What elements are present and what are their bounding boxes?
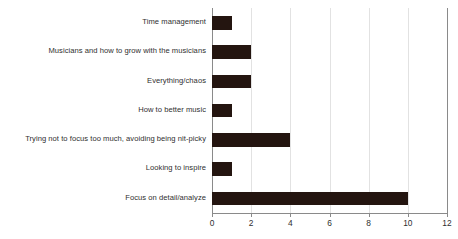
- category-label: Everything/chaos: [147, 77, 206, 85]
- bar-row: [212, 37, 447, 66]
- tick-mark: [251, 213, 252, 217]
- bar: [212, 16, 232, 30]
- bars-layer: [212, 8, 447, 213]
- tick-mark: [447, 213, 448, 217]
- bar-row: [212, 125, 447, 154]
- bar-row: [212, 96, 447, 125]
- category-label: Looking to inspire: [146, 164, 206, 172]
- tick-mark: [330, 213, 331, 217]
- bar: [212, 162, 232, 176]
- bar: [212, 75, 251, 89]
- tick-mark: [212, 213, 213, 217]
- gridline: [447, 8, 448, 213]
- category-label: Trying not to focus too much, avoiding b…: [25, 135, 206, 143]
- x-tick-label: 0: [210, 219, 215, 227]
- bar-chart: Time managementMusicians and how to grow…: [0, 0, 458, 239]
- x-tick-label: 4: [288, 219, 293, 227]
- tick-mark: [290, 213, 291, 217]
- x-tick-label: 10: [403, 219, 412, 227]
- category-label: Focus on detail/analyze: [125, 194, 206, 202]
- x-tick-label: 6: [327, 219, 332, 227]
- category-labels: Time managementMusicians and how to grow…: [0, 8, 209, 213]
- x-tick-label: 8: [366, 219, 371, 227]
- tick-mark: [408, 213, 409, 217]
- category-label: Time management: [142, 18, 206, 26]
- bar-row: [212, 67, 447, 96]
- bar-row: [212, 184, 447, 213]
- bar: [212, 45, 251, 59]
- x-tick-label: 2: [249, 219, 254, 227]
- bar: [212, 104, 232, 118]
- tick-mark: [369, 213, 370, 217]
- category-label: How to better music: [138, 106, 206, 114]
- x-tick-label: 12: [442, 219, 451, 227]
- bar: [212, 192, 408, 206]
- bar: [212, 133, 290, 147]
- category-label: Musicians and how to grow with the music…: [48, 47, 206, 55]
- bar-row: [212, 154, 447, 183]
- bar-row: [212, 8, 447, 37]
